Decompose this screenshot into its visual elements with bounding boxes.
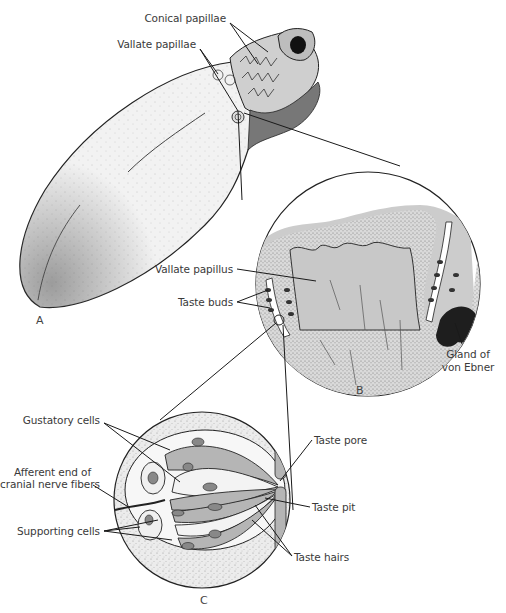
taste-anatomy-figure: Conical papillae Vallate papillae A Vall…	[0, 0, 506, 613]
label-afferent-line2: cranial nerve fibers	[0, 478, 91, 490]
label-supporting-cells: Supporting cells	[0, 525, 100, 537]
panel-label-b: B	[356, 384, 364, 397]
label-vallate-papillus: Vallate papillus	[135, 263, 233, 275]
label-taste-pit: Taste pit	[312, 501, 355, 513]
label-taste-buds: Taste buds	[155, 296, 233, 308]
label-gland-line2: von Ebner	[440, 361, 496, 373]
panel-label-a: A	[36, 314, 44, 327]
label-taste-pore: Taste pore	[314, 434, 367, 446]
label-gustatory-cells: Gustatory cells	[0, 414, 100, 426]
label-taste-hairs: Taste hairs	[294, 551, 349, 563]
label-conical-papillae: Conical papillae	[138, 12, 226, 24]
panel-label-c: C	[200, 594, 208, 607]
label-afferent-line1: Afferent end of	[0, 466, 91, 478]
label-gland-line1: Gland of	[440, 348, 496, 360]
label-vallate-papillae: Vallate papillae	[106, 38, 196, 50]
